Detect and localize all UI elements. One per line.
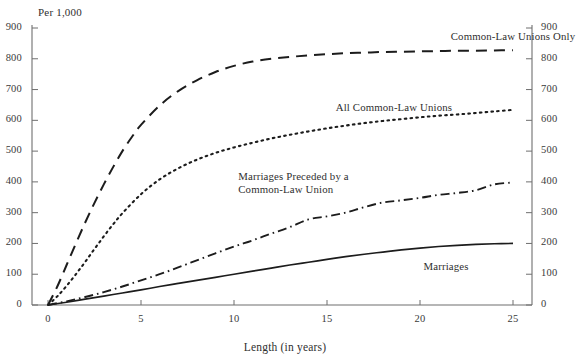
x-axis-tick-label: 20 [400,313,440,325]
y-axis-tick-label-right: 300 [541,206,580,218]
y-axis-tick-label-left: 700 [0,83,22,95]
y-axis-tick-label-left: 400 [0,175,22,187]
y-axis-tick-label-left: 600 [0,113,22,125]
x-axis-tick-label: 25 [493,313,533,325]
y-axis-tick-label-left: 900 [0,21,22,33]
x-axis-tick-label: 15 [307,313,347,325]
series-group [48,50,513,305]
y-axis-tick-label-right: 200 [541,236,580,248]
y-axis-tick-label-left: 800 [0,52,22,64]
series-line-2 [48,183,513,306]
y-axis-tick-label-right: 700 [541,83,580,95]
y-axis-tick-label-right: 900 [541,21,580,33]
y-axis-tick-label-left: 300 [0,206,22,218]
y-axis-tick-label-left: 0 [0,298,22,310]
series-line-3 [48,243,513,305]
y-axis-tick-label-right: 500 [541,144,580,156]
y-axis-unit-label: Per 1,000 [38,6,82,18]
x-axis-tick-label: 5 [121,313,161,325]
x-axis-tick-label: 0 [28,313,68,325]
y-axis-tick-label-right: 800 [541,52,580,64]
y-axis-tick-label-left: 500 [0,144,22,156]
series-line-1 [48,110,513,305]
axes-group [32,25,532,305]
y-axis-tick-label-left: 200 [0,236,22,248]
x-axis-tick-label: 10 [214,313,254,325]
y-axis-tick-label-right: 0 [541,298,580,310]
y-axis-tick-label-right: 600 [541,113,580,125]
x-axis-title: Length (in years) [205,341,365,354]
y-axis-tick-label-right: 100 [541,267,580,279]
y-axis-tick-label-right: 400 [541,175,580,187]
y-axis-tick-label-left: 100 [0,267,22,279]
